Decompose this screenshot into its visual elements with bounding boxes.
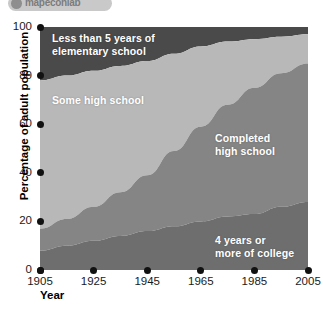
globe-icon <box>11 0 22 9</box>
x-axis-tick-label: 1945 <box>124 275 170 287</box>
x-axis-tick-label: 1985 <box>231 275 277 287</box>
y-axis-tick-label: 0 <box>2 263 32 275</box>
series-label-less-than-5-years-elementary: Less than 5 years of elementary school <box>52 32 155 58</box>
x-axis-tick-label: 2005 <box>285 275 323 287</box>
x-axis-tick-label: 1905 <box>17 275 63 287</box>
y-axis-tick-label: 20 <box>2 214 32 226</box>
x-axis-tick-label: 1965 <box>178 275 224 287</box>
x-axis-title: Year <box>40 289 64 301</box>
x-axis-tick-dot <box>305 267 312 274</box>
y-axis-tick-dot <box>37 24 44 31</box>
x-axis-tick-label: 1925 <box>71 275 117 287</box>
x-axis-tick-dot <box>251 267 258 274</box>
x-axis-tick-dot <box>37 267 44 274</box>
publisher-logo: mapeconlab <box>8 0 112 11</box>
y-axis-tick-dot <box>37 218 44 225</box>
y-axis-tick-dot <box>37 169 44 176</box>
logo-text: mapeconlab <box>25 0 80 8</box>
x-axis-tick-dot <box>90 267 97 274</box>
series-label-completed-high-school: Completed high school <box>215 132 275 158</box>
chart-figure: mapeconlab 020406080100 1905192519451965… <box>0 0 323 317</box>
x-axis-tick-dot <box>197 267 204 274</box>
y-axis-tick-dot <box>37 72 44 79</box>
y-axis-title: Percentage of adult population <box>18 26 30 206</box>
series-label-some-high-school: Some high school <box>52 94 144 107</box>
series-label-four-years-college: 4 years or more of college <box>215 234 294 260</box>
x-axis-tick-dot <box>144 267 151 274</box>
y-axis-tick-dot <box>37 121 44 128</box>
